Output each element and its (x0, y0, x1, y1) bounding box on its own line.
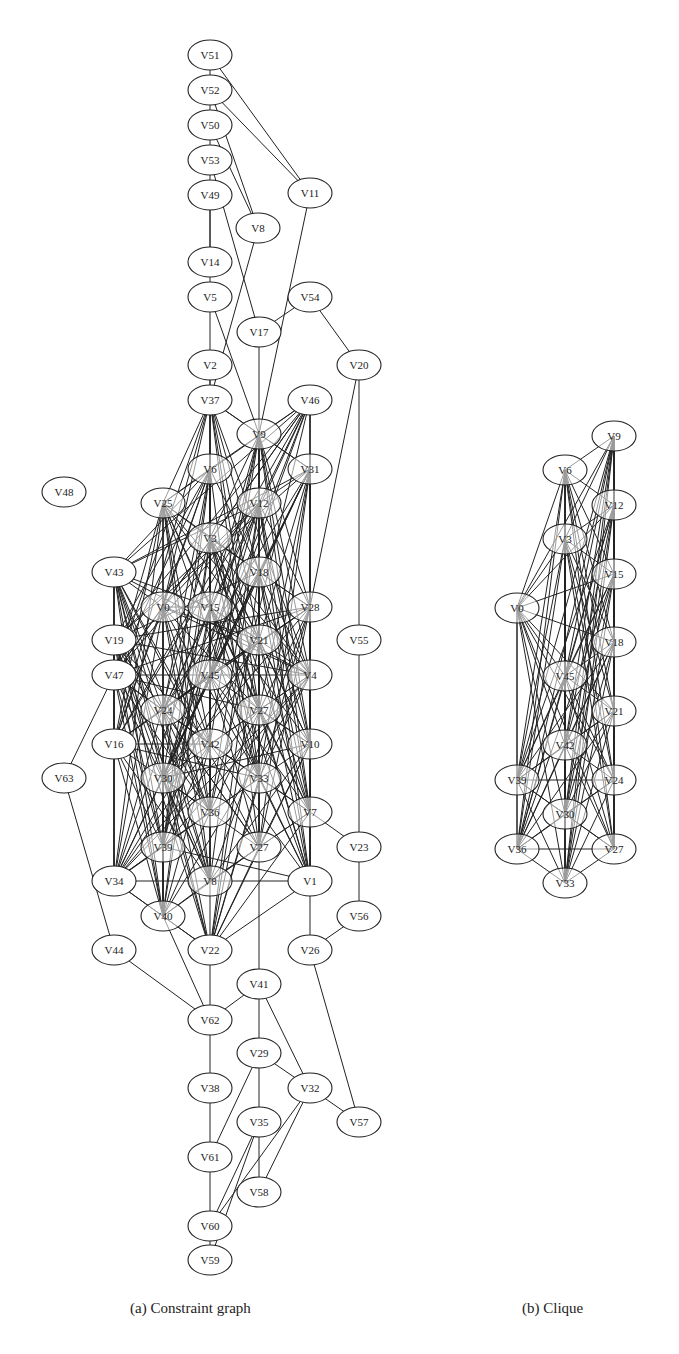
node-v5: V5 (188, 282, 232, 312)
node-label: V20 (350, 359, 369, 371)
edge (114, 503, 259, 572)
node-v45: V45 (543, 661, 587, 691)
node-v21: V21 (592, 696, 636, 726)
node-label: V40 (154, 910, 173, 922)
node-v47: V47 (92, 660, 136, 690)
node-v41: V41 (237, 969, 281, 999)
node-v14: V14 (188, 247, 232, 277)
node-label: V6 (558, 464, 572, 476)
node-v42: V42 (543, 730, 587, 760)
node-label: V28 (301, 601, 320, 613)
node-v59: V59 (188, 1245, 232, 1275)
node-v53: V53 (188, 145, 232, 175)
node-label: V22 (201, 944, 220, 956)
node-label: V30 (154, 772, 173, 784)
node-v27: V27 (592, 834, 636, 864)
edge (64, 778, 114, 950)
node-v32: V32 (288, 1073, 332, 1103)
node-v10: V10 (288, 729, 332, 759)
node-label: V51 (201, 49, 220, 61)
node-v2: V2 (188, 350, 232, 380)
node-label: V57 (350, 1116, 369, 1128)
node-v33: V33 (543, 868, 587, 898)
node-v38: V38 (188, 1073, 232, 1103)
node-v40: V40 (141, 901, 185, 931)
node-label: V12 (250, 497, 269, 509)
node-label: V27 (250, 704, 269, 716)
node-label: V45 (201, 669, 220, 681)
edge (259, 1088, 310, 1192)
node-label: V17 (250, 326, 269, 338)
node-label: V42 (556, 739, 575, 751)
node-v30: V30 (141, 763, 185, 793)
node-label: V15 (201, 601, 220, 613)
edge (210, 125, 258, 228)
node-v54: V54 (288, 282, 332, 312)
node-v0: V0 (495, 593, 539, 623)
node-label: V53 (201, 154, 220, 166)
edge (114, 469, 210, 572)
edge (210, 90, 310, 193)
node-v36: V36 (495, 834, 539, 864)
node-label: V59 (201, 1254, 220, 1266)
node-label: V8 (251, 222, 265, 234)
node-label: V39 (508, 774, 527, 786)
node-label: V19 (105, 634, 124, 646)
node-label: V50 (201, 119, 220, 131)
node-label: V33 (556, 877, 575, 889)
node-label: V21 (250, 634, 269, 646)
node-label: V48 (55, 486, 74, 498)
node-v20: V20 (337, 350, 381, 380)
edge (163, 916, 210, 1020)
node-label: V34 (105, 875, 124, 887)
node-label: V18 (605, 636, 624, 648)
node-v26: V26 (288, 935, 332, 965)
node-label: V54 (301, 291, 320, 303)
node-label: V52 (201, 84, 220, 96)
node-label: V3 (203, 532, 217, 544)
node-label: V42 (201, 738, 220, 750)
node-v63: V63 (42, 763, 86, 793)
node-label: V58 (250, 1186, 269, 1198)
node-label: V55 (350, 634, 369, 646)
node-label: V21 (605, 705, 624, 717)
node-label: V9 (607, 430, 621, 442)
node-v21: V21 (237, 625, 281, 655)
node-v58: V58 (237, 1177, 281, 1207)
node-label: V7 (303, 806, 317, 818)
node-v25: V25 (141, 488, 185, 518)
node-v15: V15 (592, 559, 636, 589)
node-label: V23 (350, 841, 369, 853)
edge (163, 400, 210, 503)
node-v50: V50 (188, 110, 232, 140)
node-label: V41 (250, 978, 269, 990)
node-label: V35 (250, 1116, 269, 1128)
node-label: V39 (154, 841, 173, 853)
node-label: V38 (201, 1082, 220, 1094)
node-label: V47 (105, 669, 124, 681)
node-label: V36 (201, 806, 220, 818)
node-label: V61 (201, 1151, 220, 1163)
node-v37: V37 (188, 385, 232, 415)
node-label: V27 (250, 841, 269, 853)
node-v3: V3 (188, 523, 232, 553)
node-v39: V39 (141, 832, 185, 862)
node-v11: V11 (288, 178, 332, 208)
node-v15: V15 (188, 592, 232, 622)
node-v60: V60 (188, 1211, 232, 1241)
node-v33: V33 (237, 763, 281, 793)
node-v31: V31 (288, 454, 332, 484)
node-v9: V9 (237, 419, 281, 449)
edge (163, 847, 310, 881)
node-label: V60 (201, 1220, 220, 1232)
node-v46: V46 (288, 385, 332, 415)
node-label: V3 (558, 533, 572, 545)
node-v42: V42 (188, 729, 232, 759)
node-v9: V9 (592, 421, 636, 451)
node-label: V9 (252, 428, 266, 440)
node-v35: V35 (237, 1107, 281, 1137)
node-label: V18 (250, 566, 269, 578)
node-label: V63 (55, 772, 74, 784)
node-label: V29 (250, 1047, 269, 1059)
node-v16: V16 (92, 729, 136, 759)
